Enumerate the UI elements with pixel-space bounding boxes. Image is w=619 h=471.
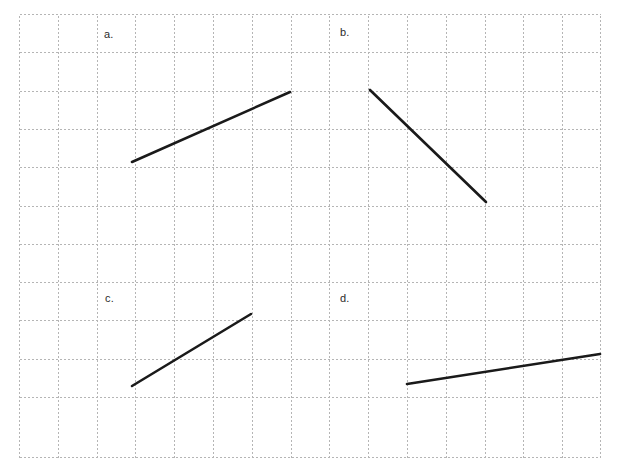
line-segments-layer [0, 0, 619, 471]
panel-label-d: d. [340, 293, 350, 304]
panel-label-b: b. [340, 27, 350, 38]
figure-canvas: a. b. c. d. [0, 0, 619, 471]
panel-label-a: a. [104, 29, 114, 40]
segment-d-line [407, 354, 600, 384]
segment-c-line [132, 314, 251, 386]
panel-label-c: c. [105, 293, 114, 304]
segment-a-line [132, 92, 290, 162]
segment-b-line [370, 90, 486, 202]
